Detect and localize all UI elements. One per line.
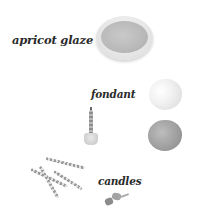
- white-fondant-ball-icon: [149, 79, 182, 110]
- striped-candle-icon: [46, 157, 86, 170]
- bowl-icon: [96, 16, 153, 60]
- candle-holder-icon: [84, 133, 98, 145]
- glaze-label: apricot glaze: [12, 33, 93, 47]
- candles-label: candles: [98, 175, 141, 187]
- candle-stick-icon: [89, 110, 93, 135]
- apricot-glaze-fill: [101, 21, 148, 53]
- grey-fondant-ball-icon: [148, 120, 182, 151]
- fondant-label: fondant: [91, 88, 135, 100]
